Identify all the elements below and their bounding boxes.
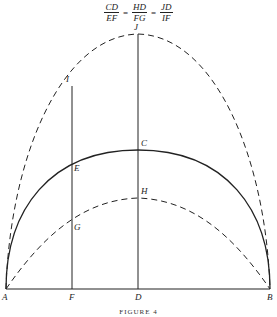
figure-caption: FIGURE 4 [0,308,277,316]
label-F: F [68,292,75,302]
label-C: C [141,138,148,148]
label-A: A [1,292,8,302]
label-I: I [65,74,70,84]
label-J: J [134,22,139,32]
label-H: H [140,186,148,196]
label-D: D [134,292,142,302]
arch-diagram: J I C E H G A F D B [0,0,277,317]
label-B: B [267,292,273,302]
label-E: E [73,163,80,173]
label-G: G [74,222,81,232]
